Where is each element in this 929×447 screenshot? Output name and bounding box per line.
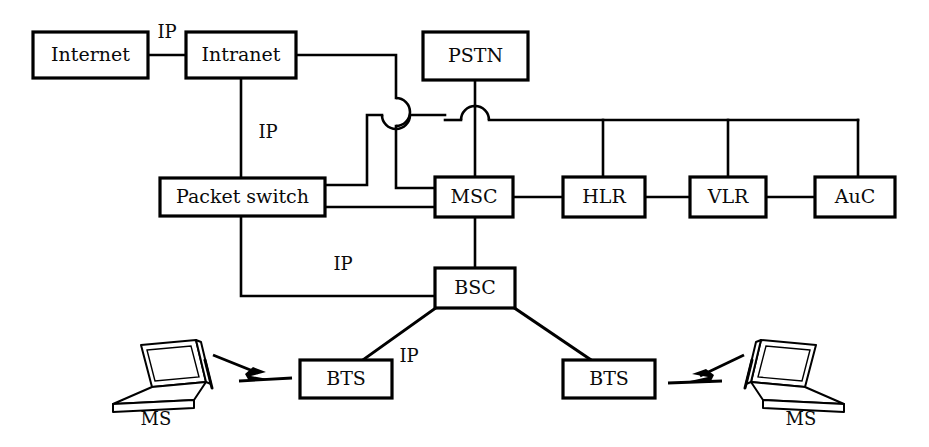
edge-label-ip-bsc-bts: IP [399, 345, 418, 366]
node-packet-switch-label: Packet switch [176, 185, 309, 207]
node-vlr-label: VLR [707, 185, 749, 207]
node-auc[interactable]: AuC [815, 177, 895, 217]
link-intranet-to-msc [396, 126, 435, 188]
links-layer [148, 55, 858, 383]
ms-left-label: MS [141, 408, 172, 429]
node-bsc-label: BSC [454, 276, 496, 298]
radio-link-right [668, 355, 744, 383]
node-auc-label: AuC [834, 185, 876, 207]
node-intranet[interactable]: Intranet [186, 32, 296, 78]
terminal-ms-left[interactable]: MS [113, 340, 212, 429]
radio-link-left [213, 355, 292, 381]
node-bts-right[interactable]: BTS [563, 360, 655, 398]
laptop-icon-left [113, 340, 212, 412]
node-bsc[interactable]: BSC [435, 268, 515, 308]
terminal-ms-right[interactable]: MS [745, 340, 844, 429]
node-bts-left[interactable]: BTS [300, 360, 392, 398]
link-packet-switch-upper-seg [325, 115, 382, 185]
node-pstn[interactable]: PSTN [423, 32, 528, 80]
node-hlr-label: HLR [582, 185, 626, 207]
node-vlr[interactable]: VLR [690, 177, 766, 217]
network-diagram-canvas: Internet Intranet PSTN Packet switch MSC [0, 0, 929, 447]
node-msc[interactable]: MSC [435, 177, 513, 217]
edge-label-ip-packet-switch-bsc: IP [333, 253, 352, 274]
node-bts-left-label: BTS [326, 367, 366, 389]
node-internet-label: Internet [51, 43, 130, 65]
laptop-icon-right [745, 340, 844, 412]
edge-label-ip-internet-intranet: IP [157, 21, 176, 42]
node-pstn-label: PSTN [448, 44, 503, 66]
node-internet[interactable]: Internet [33, 32, 148, 78]
edge-label-ip-intranet-packet-switch: IP [258, 121, 277, 142]
link-bsc-bts-right [513, 307, 594, 362]
node-hlr[interactable]: HLR [563, 177, 645, 217]
node-msc-label: MSC [450, 185, 497, 207]
node-packet-switch[interactable]: Packet switch [160, 178, 325, 216]
ms-right-label: MS [786, 408, 817, 429]
node-intranet-label: Intranet [202, 43, 281, 65]
link-intranet-bus-seg [296, 55, 396, 98]
node-bts-right-label: BTS [589, 367, 629, 389]
network-diagram: Internet Intranet PSTN Packet switch MSC [0, 0, 929, 447]
